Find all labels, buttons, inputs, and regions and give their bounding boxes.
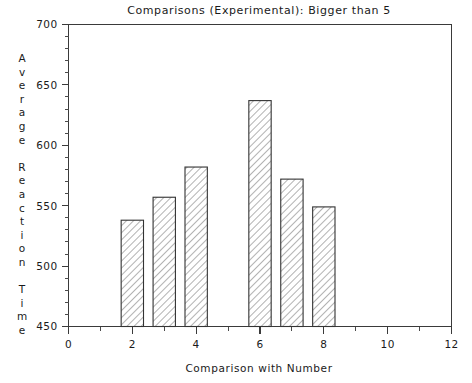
bar-chart-figure: Comparisons (Experimental): Bigger than … bbox=[0, 0, 472, 383]
y-axis-title-char: e bbox=[19, 134, 25, 146]
y-axis-title-char: c bbox=[19, 202, 25, 214]
y-axis-title-char: T bbox=[18, 283, 26, 295]
y-axis-title-char: v bbox=[19, 66, 25, 78]
y-axis-title-char: g bbox=[19, 120, 26, 132]
x-tick-label: 2 bbox=[129, 338, 136, 350]
bar bbox=[281, 179, 303, 326]
y-axis-title-char: o bbox=[19, 242, 25, 254]
x-tick-label: 4 bbox=[193, 338, 200, 350]
y-axis-title-char: e bbox=[19, 174, 25, 186]
y-axis-title-char: R bbox=[18, 161, 25, 173]
y-axis-title-char: A bbox=[18, 52, 26, 64]
bar bbox=[121, 220, 143, 326]
y-tick-label: 600 bbox=[36, 139, 57, 151]
chart-background bbox=[0, 0, 472, 383]
y-tick-label: 550 bbox=[36, 200, 57, 212]
chart-canvas: Comparisons (Experimental): Bigger than … bbox=[0, 0, 472, 383]
x-axis-title: Comparison with Number bbox=[185, 362, 332, 374]
bar bbox=[153, 197, 175, 326]
x-tick-label: 0 bbox=[65, 338, 72, 350]
y-axis-title-char: e bbox=[19, 324, 25, 336]
y-axis-title-char: r bbox=[20, 93, 25, 105]
x-tick-label: 8 bbox=[320, 338, 327, 350]
y-tick-label: 450 bbox=[36, 320, 57, 332]
bar bbox=[249, 101, 271, 327]
y-axis-title-char: m bbox=[17, 310, 27, 322]
y-tick-label: 700 bbox=[36, 18, 57, 30]
x-tick-label: 6 bbox=[256, 338, 263, 350]
chart-title: Comparisons (Experimental): Bigger than … bbox=[127, 4, 391, 17]
y-axis-title-char: t bbox=[20, 215, 24, 227]
y-tick-label: 650 bbox=[36, 79, 57, 91]
y-axis-title-char: a bbox=[19, 188, 25, 200]
y-axis-title-char: i bbox=[21, 297, 24, 309]
bar bbox=[313, 207, 335, 327]
y-axis-title-char: e bbox=[19, 79, 25, 91]
y-axis-title-char: i bbox=[21, 229, 24, 241]
y-axis-title-char: n bbox=[19, 256, 26, 268]
y-axis-title-char: a bbox=[19, 106, 25, 118]
y-tick-label: 500 bbox=[36, 260, 57, 272]
bar bbox=[185, 167, 207, 326]
x-tick-label: 10 bbox=[381, 338, 395, 350]
x-tick-label: 12 bbox=[444, 338, 458, 350]
